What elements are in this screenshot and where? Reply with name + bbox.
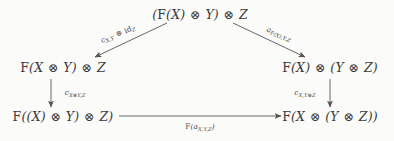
node-mid-right: F(X) ⊗ (Y ⊗ Z) <box>282 60 378 75</box>
node-bottom-left: F((X) ⊗ Y) ⊗ Z) <box>13 109 114 124</box>
arrow-label-bottom-left-to-bottom-right: F(aX,Y,Z) <box>185 122 214 131</box>
arrow-label-mid-right-to-bottom-right: cX,Y⊗Z <box>294 88 315 97</box>
node-top: (F(X) ⊗ Y) ⊗ Z <box>152 7 248 22</box>
node-mid-left: F(X ⊗ Y) ⊗ Z <box>20 60 106 75</box>
commutative-diagram-figure: (F(X) ⊗ Y) ⊗ Z F(X ⊗ Y) ⊗ Z F(X) ⊗ (Y ⊗ … <box>0 0 394 141</box>
node-bottom-right: F(X ⊗ (Y ⊗ Z)) <box>282 109 378 124</box>
arrow-label-mid-left-to-bottom-left: cX⊗Y,Z <box>65 88 86 97</box>
